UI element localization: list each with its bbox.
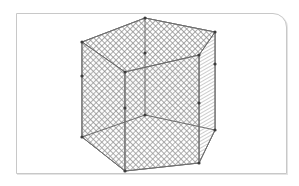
vertex-dot: [123, 169, 126, 172]
vertex-dot: [80, 40, 83, 43]
vertex-dot: [197, 53, 200, 56]
vertex-dot: [213, 30, 216, 33]
lattice-prism-figure: [0, 0, 299, 186]
vertex-dot: [197, 161, 200, 164]
front-right-wall: [125, 55, 199, 171]
vertex-dot: [197, 101, 200, 104]
vertex-dot: [123, 106, 126, 109]
vertex-dot: [80, 135, 83, 138]
vertex-dot: [80, 74, 83, 77]
vertex-dot: [143, 16, 146, 19]
vertex-dot: [143, 51, 146, 54]
vertex-dot: [123, 70, 126, 73]
vertex-dot: [143, 113, 146, 116]
vertex-dot: [213, 62, 216, 65]
prism-geometry: [80, 16, 216, 172]
vertex-dot: [213, 128, 216, 131]
